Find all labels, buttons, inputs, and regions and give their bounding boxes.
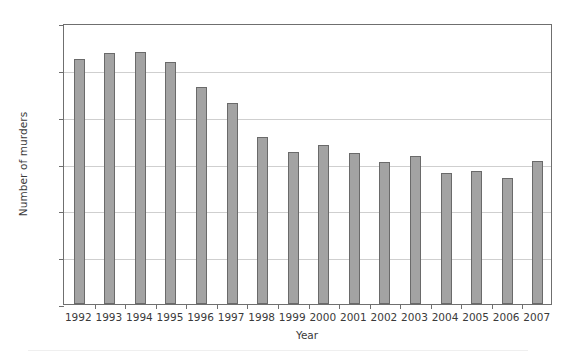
x-tick-mark: [492, 304, 493, 309]
bar: [74, 59, 85, 304]
bar: [165, 62, 176, 304]
scan-artifact-line: [28, 350, 528, 351]
bar: [196, 87, 207, 304]
y-tick-mark: [59, 166, 64, 167]
bar: [410, 156, 421, 304]
bar: [502, 178, 513, 304]
bar: [349, 153, 360, 304]
y-tick-mark: [59, 119, 64, 120]
x-tick-label: 2007: [517, 311, 557, 323]
x-tick-mark: [522, 304, 523, 309]
bar: [104, 53, 115, 304]
bar: [379, 162, 390, 304]
bar: [318, 145, 329, 304]
y-axis-title: Number of murders: [17, 74, 29, 254]
x-tick-mark: [309, 304, 310, 309]
x-tick-mark: [400, 304, 401, 309]
x-tick-mark: [247, 304, 248, 309]
bar: [227, 103, 238, 304]
bar: [135, 52, 146, 304]
x-tick-mark: [156, 304, 157, 309]
x-tick-mark: [431, 304, 432, 309]
x-tick-mark: [125, 304, 126, 309]
x-tick-mark: [95, 304, 96, 309]
bar: [288, 152, 299, 304]
x-axis-title: Year: [0, 329, 570, 341]
x-tick-mark: [186, 304, 187, 309]
bar: [471, 171, 482, 304]
x-tick-mark: [461, 304, 462, 309]
x-tick-mark: [339, 304, 340, 309]
bar: [257, 137, 268, 304]
plot-area: 020040060080010001200: [63, 24, 552, 305]
x-axis-title-label: Year: [296, 329, 318, 341]
x-tick-mark: [278, 304, 279, 309]
y-tick-mark: [59, 259, 64, 260]
x-tick-mark: [217, 304, 218, 309]
y-tick-mark: [59, 25, 64, 26]
bar: [441, 173, 452, 304]
y-tick-mark: [59, 306, 64, 307]
y-tick-mark: [59, 212, 64, 213]
x-tick-mark: [370, 304, 371, 309]
bar-chart: Number of murders 020040060080010001200 …: [0, 0, 570, 355]
y-tick-mark: [59, 72, 64, 73]
bar: [532, 161, 543, 304]
